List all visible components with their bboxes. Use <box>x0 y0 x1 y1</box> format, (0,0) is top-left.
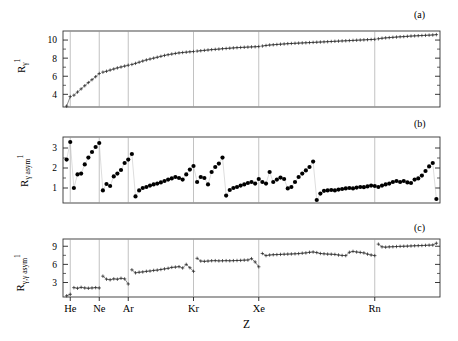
data-point <box>297 41 300 44</box>
data-point <box>199 49 202 52</box>
y-axis-label-b: Rγ asym1 <box>16 155 32 187</box>
data-point <box>141 59 144 62</box>
data-point <box>250 45 253 48</box>
data-point <box>278 176 282 180</box>
data-point <box>293 180 297 184</box>
data-point <box>351 186 355 190</box>
data-point <box>311 160 315 164</box>
y-axis-label-a-base: R <box>15 66 27 73</box>
data-point <box>177 51 180 54</box>
data-point <box>377 37 380 40</box>
data-point <box>297 252 300 255</box>
y-tick-label: 4 <box>52 90 57 100</box>
data-point <box>268 43 271 46</box>
data-point <box>90 286 93 289</box>
data-point <box>94 286 97 289</box>
data-point <box>152 269 155 272</box>
data-point <box>228 46 231 49</box>
panel-label-b: (b) <box>414 118 426 129</box>
data-point <box>232 46 235 49</box>
data-point <box>97 141 101 145</box>
data-point <box>395 35 398 38</box>
data-point <box>319 40 322 43</box>
data-point <box>380 37 383 40</box>
data-point <box>152 182 156 186</box>
data-point <box>275 178 279 182</box>
y-axis-label-a: Rγ1 <box>13 59 29 73</box>
data-point <box>362 185 366 189</box>
data-point <box>79 172 83 176</box>
data-point <box>239 46 242 49</box>
data-point <box>359 38 362 41</box>
data-point <box>337 39 340 42</box>
data-point <box>395 245 398 248</box>
data-point <box>101 70 104 73</box>
data-point <box>322 189 326 193</box>
data-point <box>116 66 119 69</box>
data-point <box>246 45 249 48</box>
data-point <box>206 182 210 186</box>
data-point <box>202 176 206 180</box>
data-point <box>134 62 137 65</box>
data-point <box>348 39 351 42</box>
data-point <box>257 177 261 181</box>
data-point <box>105 70 108 73</box>
data-point <box>424 34 427 37</box>
multi-panel-plot: 46810123369HeNeArKrXeRn <box>0 0 458 341</box>
data-point <box>304 41 307 44</box>
data-point <box>340 254 343 257</box>
data-point <box>224 194 228 198</box>
data-point <box>282 177 286 181</box>
data-point <box>427 33 430 36</box>
data-line <box>67 243 437 296</box>
data-point <box>239 184 243 188</box>
data-point <box>257 45 260 48</box>
data-point <box>246 181 250 185</box>
data-point <box>402 179 406 183</box>
data-point <box>195 180 199 184</box>
data-point <box>435 33 438 36</box>
data-point <box>112 67 115 70</box>
data-point <box>308 251 311 254</box>
data-point <box>315 41 318 44</box>
data-point <box>243 46 246 49</box>
x-tick-label-He: He <box>64 303 77 314</box>
data-point <box>336 188 340 192</box>
data-point <box>98 286 101 289</box>
data-point <box>406 35 409 38</box>
data-point <box>127 64 130 67</box>
data-point <box>405 180 409 184</box>
data-point <box>268 253 271 256</box>
data-point <box>326 40 329 43</box>
data-point <box>351 250 354 253</box>
data-point <box>253 182 257 186</box>
data-point <box>119 277 122 280</box>
y-tick-label: 9 <box>52 242 57 252</box>
data-point <box>213 165 217 169</box>
y-tick-label: 3 <box>52 278 57 288</box>
data-point <box>301 251 304 254</box>
data-point <box>275 253 278 256</box>
data-point <box>406 244 409 247</box>
figure-root: 46810123369HeNeArKrXeRn (a) (b) (c) Rγ1 … <box>0 0 458 341</box>
data-point <box>188 168 192 172</box>
data-point <box>214 48 217 51</box>
data-point <box>206 48 209 51</box>
y-tick-label: 3 <box>52 143 57 153</box>
data-point <box>75 172 79 176</box>
data-point <box>275 43 278 46</box>
data-point <box>431 243 434 246</box>
data-point <box>90 150 94 154</box>
data-point <box>307 165 311 169</box>
data-point <box>203 260 206 263</box>
data-point <box>268 170 272 174</box>
data-point <box>217 47 220 50</box>
data-point <box>434 197 438 201</box>
y-tick-label: 6 <box>52 260 57 270</box>
data-point <box>221 259 224 262</box>
data-point <box>351 39 354 42</box>
data-point <box>384 245 387 248</box>
data-point <box>333 40 336 43</box>
data-point <box>398 35 401 38</box>
x-tick-label-Xe: Xe <box>253 303 266 314</box>
